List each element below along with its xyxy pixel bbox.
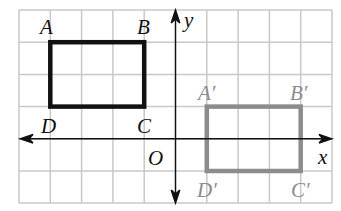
label-A: A bbox=[38, 15, 53, 39]
label-D-prime: D′ bbox=[196, 178, 217, 202]
x-axis-label: x bbox=[317, 145, 328, 169]
label-D: D bbox=[40, 114, 56, 138]
label-A-prime: A′ bbox=[196, 81, 216, 105]
y-axis-label: y bbox=[182, 8, 194, 32]
coordinate-plane: A B C D A′ B′ C′ D′ y x O bbox=[0, 0, 341, 211]
label-B-prime: B′ bbox=[290, 81, 308, 105]
origin-label: O bbox=[148, 146, 163, 170]
label-C-prime: C′ bbox=[291, 178, 310, 202]
label-B: B bbox=[137, 15, 150, 39]
label-C: C bbox=[137, 114, 152, 138]
